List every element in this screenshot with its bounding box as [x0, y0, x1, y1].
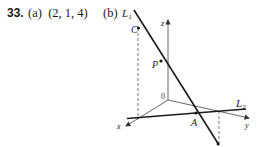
label-origin: 0 [161, 92, 165, 101]
point-x-l2 [137, 117, 139, 119]
label-l2: L2 [235, 97, 246, 111]
point-end [217, 143, 220, 146]
line-l1 [134, 10, 219, 145]
label-y: y [244, 121, 249, 130]
point-p [159, 59, 162, 62]
label-a: A [190, 117, 198, 128]
point-a [194, 111, 197, 114]
label-z: z [160, 19, 165, 28]
label-p: P [151, 59, 158, 70]
figure-3d-lines: L1 L2 C P A z x y 0 [0, 0, 260, 147]
label-x: x [116, 122, 121, 131]
label-l1: L1 [121, 7, 132, 21]
label-c: C [131, 24, 138, 35]
x-axis [126, 100, 168, 126]
